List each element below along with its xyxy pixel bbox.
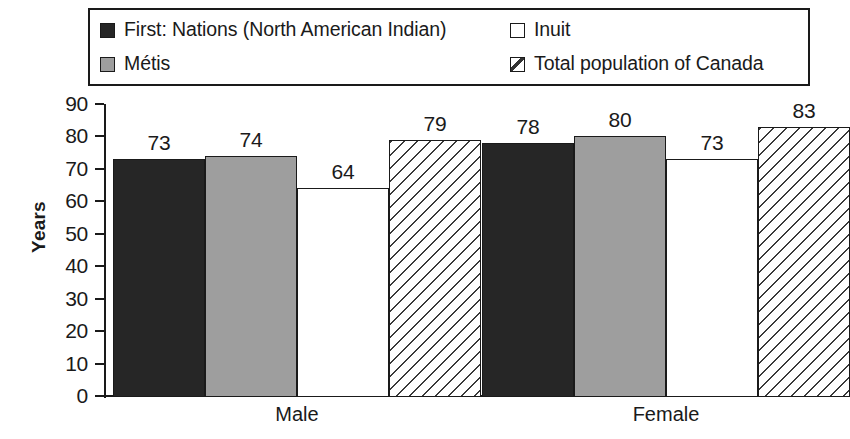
y-axis-tick-label: 10 xyxy=(42,353,88,374)
y-axis-tick xyxy=(95,168,104,170)
bar-value-label: 74 xyxy=(205,129,297,150)
bar-value-label: 64 xyxy=(297,161,389,182)
y-axis-tick-label: 60 xyxy=(42,190,88,211)
y-axis-tick xyxy=(95,135,104,137)
bar xyxy=(389,140,481,397)
y-axis-tick-label: 20 xyxy=(42,320,88,341)
y-axis-tick-label: 40 xyxy=(42,255,88,276)
bar-value-label: 73 xyxy=(113,132,205,153)
y-axis-tick xyxy=(95,200,104,202)
y-axis-tick-label: 50 xyxy=(42,223,88,244)
bar xyxy=(113,159,205,397)
y-axis-tick xyxy=(95,298,104,300)
y-axis-tick-label: 90 xyxy=(42,93,88,114)
bar xyxy=(574,136,666,397)
bar-value-label: 79 xyxy=(389,113,481,134)
x-axis-group-label: Male xyxy=(113,404,481,424)
bar-value-label: 78 xyxy=(482,116,574,137)
y-axis-tick-label: 30 xyxy=(42,288,88,309)
y-axis-tick xyxy=(95,265,104,267)
bar-value-label: 83 xyxy=(758,100,850,121)
bar-value-label: 80 xyxy=(574,109,666,130)
bar xyxy=(205,156,297,397)
y-axis-tick xyxy=(95,233,104,235)
y-axis-tick-label: 70 xyxy=(42,158,88,179)
bar xyxy=(297,188,389,397)
y-axis-tick xyxy=(95,330,104,332)
bar xyxy=(758,127,850,397)
bar xyxy=(666,159,758,397)
bar-value-label: 73 xyxy=(666,132,758,153)
y-axis-tick-label: 0 xyxy=(42,385,88,406)
y-axis-tick xyxy=(95,363,104,365)
y-axis-line xyxy=(104,104,106,398)
bar xyxy=(482,143,574,397)
x-axis-group-label: Female xyxy=(482,404,850,424)
y-axis-tick xyxy=(95,395,104,397)
y-axis-tick-label: 80 xyxy=(42,125,88,146)
y-axis-tick xyxy=(95,103,104,105)
